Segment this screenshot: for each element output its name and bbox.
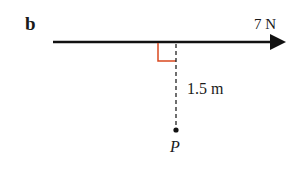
- arrowhead-icon: [270, 34, 286, 50]
- force-label: 7 N: [254, 16, 276, 32]
- force-moment-diagram: b 7 N 1.5 m P: [0, 0, 293, 172]
- part-label: b: [25, 13, 36, 34]
- distance-label: 1.5 m: [187, 80, 224, 97]
- point-label: P: [169, 138, 180, 155]
- point-p-dot: [173, 127, 178, 132]
- right-angle-marker: [158, 43, 176, 61]
